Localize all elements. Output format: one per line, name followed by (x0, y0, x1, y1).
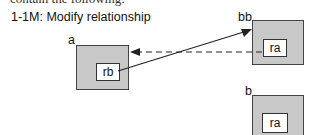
arrowhead-icon (130, 48, 140, 56)
arrowhead-icon (241, 29, 252, 37)
relationship-arrows (0, 0, 311, 135)
